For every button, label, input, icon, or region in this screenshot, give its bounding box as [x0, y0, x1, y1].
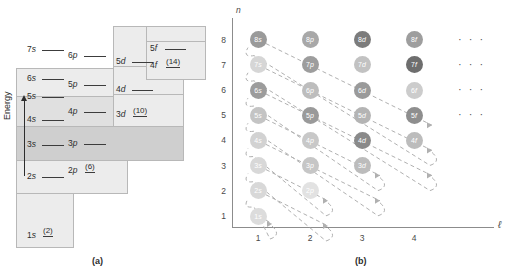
- orbital-circle-6f[interactable]: 6f: [406, 82, 423, 99]
- level-line-4p: [84, 112, 106, 113]
- orbital-circle-2p[interactable]: 2p: [302, 182, 319, 199]
- level-line-6s: [42, 79, 64, 80]
- figure-root: Energy 7s 6p 5d 5f 4f (14) 6s 5p 4d 5s 4…: [0, 0, 511, 276]
- orbital-circle-5s[interactable]: 5s: [250, 107, 267, 124]
- madelung-arrowhead-7: [427, 122, 432, 128]
- energy-axis-label: Energy: [2, 91, 12, 120]
- level-label-3s: 3s: [27, 140, 36, 149]
- orbital-circle-5p[interactable]: 5p: [302, 107, 319, 124]
- madelung-arrowhead-3: [375, 198, 380, 204]
- level-label-4f: 4f: [150, 61, 157, 70]
- orbital-circle-7f[interactable]: 7f: [406, 56, 423, 73]
- orbital-circle-6d[interactable]: 6d: [354, 82, 371, 99]
- level-label-1s: 1s: [27, 231, 36, 240]
- block-5f: [146, 26, 206, 42]
- level-line-5s: [42, 97, 64, 98]
- panel-a-energy-ladder: Energy 7s 6p 5d 5f 4f (14) 6s 5p 4d 5s 4…: [0, 0, 210, 276]
- level-label-4s: 4s: [27, 115, 36, 124]
- orbital-circle-5f[interactable]: 5f: [406, 107, 423, 124]
- madelung-arrowhead-6: [427, 147, 432, 153]
- capacity-2p: (6): [85, 163, 95, 173]
- orbital-circle-2s[interactable]: 2s: [250, 182, 267, 199]
- orbital-circle-8d[interactable]: 8d: [354, 31, 371, 48]
- level-line-4s: [42, 120, 64, 121]
- ellipsis-row-8: · · ·: [458, 34, 485, 45]
- panel-b-caption: (b): [355, 256, 367, 266]
- orbital-circle-8f[interactable]: 8f: [406, 31, 423, 48]
- orbital-circle-4p[interactable]: 4p: [302, 132, 319, 149]
- level-line-7s: [42, 50, 64, 51]
- level-label-4d: 4d: [116, 85, 125, 94]
- orbital-circle-8p[interactable]: 8p: [302, 31, 319, 48]
- level-label-3d: 3d: [116, 110, 125, 119]
- madelung-arrowhead-2: [323, 198, 328, 204]
- level-line-3p: [84, 144, 106, 145]
- orbital-circle-4s[interactable]: 4s: [250, 132, 267, 149]
- level-label-2s: 2s: [27, 172, 36, 181]
- level-line-6p: [84, 56, 106, 57]
- madelung-arrowhead-5: [427, 173, 432, 179]
- ellipsis-row-7: · · ·: [458, 59, 485, 70]
- level-line-5f: [165, 49, 186, 50]
- capacity-1s: (2): [43, 227, 53, 237]
- capacity-4f: (14): [166, 58, 180, 68]
- madelung-arrow-1: [266, 195, 328, 226]
- ellipsis-row-6: · · ·: [458, 84, 485, 95]
- orbital-circle-4f[interactable]: 4f: [406, 132, 423, 149]
- panel-b-madelung-diagram: n ℓ 87654321 1234 8s8p8d8f7s7p7d7f6s6p6d…: [210, 0, 511, 276]
- level-label-5d: 5d: [116, 57, 125, 66]
- level-label-6s: 6s: [27, 74, 36, 83]
- level-line-4d: [132, 90, 153, 91]
- level-label-5p: 5p: [68, 80, 77, 89]
- orbital-circle-3d[interactable]: 3d: [354, 157, 371, 174]
- level-line-3s: [42, 145, 64, 146]
- level-label-2p: 2p: [68, 166, 77, 175]
- madelung-arrow-2: [266, 170, 328, 201]
- orbital-circle-7d[interactable]: 7d: [354, 56, 371, 73]
- level-label-7s: 7s: [27, 45, 36, 54]
- level-label-3p: 3p: [68, 139, 77, 148]
- level-label-4p: 4p: [68, 107, 77, 116]
- block-1s: [16, 193, 74, 248]
- capacity-3d: (10): [133, 107, 147, 117]
- orbital-circle-8s[interactable]: 8s: [250, 31, 267, 48]
- level-label-5s: 5s: [27, 92, 36, 101]
- ellipsis-row-5: · · ·: [458, 109, 485, 120]
- level-label-6p: 6p: [68, 51, 77, 60]
- level-line-5p: [84, 85, 106, 86]
- orbital-circle-3s[interactable]: 3s: [250, 157, 267, 174]
- orbital-circle-6p[interactable]: 6p: [302, 82, 319, 99]
- energy-axis-line: [24, 98, 25, 176]
- orbital-circle-1s[interactable]: 1s: [250, 208, 267, 225]
- orbital-circle-7p[interactable]: 7p: [302, 56, 319, 73]
- panel-a-caption: (a): [92, 256, 103, 266]
- madelung-arrowhead-1: [323, 223, 328, 229]
- orbital-circle-4d[interactable]: 4d: [354, 132, 371, 149]
- madelung-arrowhead-4: [375, 173, 380, 179]
- level-line-2s: [42, 177, 64, 178]
- orbital-circle-7s[interactable]: 7s: [250, 56, 267, 73]
- orbital-circle-5d[interactable]: 5d: [354, 107, 371, 124]
- orbital-circle-3p[interactable]: 3p: [302, 157, 319, 174]
- orbital-circle-6s[interactable]: 6s: [250, 82, 267, 99]
- level-label-5f: 5f: [150, 44, 157, 53]
